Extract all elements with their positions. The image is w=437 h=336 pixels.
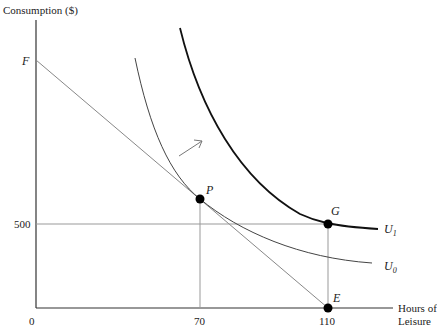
- point-e: [324, 304, 333, 313]
- budget-line: [36, 60, 328, 308]
- u0-label: U0: [384, 259, 397, 275]
- tick-500: 500: [14, 218, 31, 230]
- tick-70: 70: [194, 315, 206, 327]
- point-p: [196, 195, 205, 204]
- x-axis-label-line2: Leisure: [398, 315, 431, 327]
- y-axis-label: Consumption ($): [3, 4, 78, 17]
- point-g: [324, 220, 333, 229]
- indifference-curve-u1: [180, 28, 378, 229]
- point-e-label: E: [332, 291, 341, 305]
- indifference-curve-u0: [135, 58, 372, 263]
- point-f-label: F: [21, 54, 30, 68]
- x-axis-label-line1: Hours of: [398, 302, 437, 314]
- tick-0: 0: [29, 315, 35, 327]
- labor-leisure-diagram: Consumption ($) F P G E U1 U0 500 0 70 1…: [0, 0, 437, 336]
- tick-110: 110: [319, 315, 336, 327]
- shift-arrow: [179, 141, 202, 156]
- u1-label: U1: [384, 222, 397, 238]
- point-p-label: P: [205, 183, 214, 197]
- point-g-label: G: [331, 204, 340, 218]
